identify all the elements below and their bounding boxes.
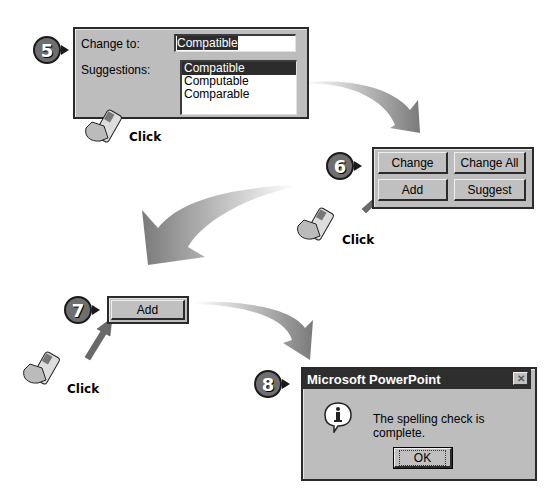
suggestion-item[interactable]: Comparable <box>182 88 296 101</box>
step-6-badge: 6 <box>326 152 362 180</box>
change-to-input[interactable]: Compatible <box>174 34 296 52</box>
message-text: The spelling check is complete. <box>373 412 535 440</box>
spelling-buttons-panel: Change Change All Add Suggest <box>372 147 534 209</box>
step-number: 5 <box>33 36 61 64</box>
step-5-badge: 5 <box>33 36 69 64</box>
mouse-hand-icon <box>82 108 127 150</box>
badge-pointer <box>61 45 69 55</box>
pointer-arrow-7 <box>85 318 112 360</box>
add-button-panel: Add <box>107 296 189 324</box>
info-icon <box>323 401 353 436</box>
change-all-button[interactable]: Change All <box>454 152 526 174</box>
close-button[interactable]: ✕ <box>513 372 528 385</box>
message-box: Microsoft PowerPoint ✕ The spelling chec… <box>301 367 537 481</box>
click-label: Click <box>342 233 374 247</box>
badge-pointer <box>282 379 290 389</box>
message-box-title-bar: Microsoft PowerPoint ✕ <box>303 369 531 389</box>
add-button[interactable]: Add <box>378 179 448 201</box>
add-button[interactable]: Add <box>111 300 185 320</box>
curved-arrow-7-to-8 <box>195 302 313 360</box>
message-box-title: Microsoft PowerPoint <box>307 372 441 387</box>
close-icon: ✕ <box>517 373 525 384</box>
step-number: 8 <box>254 370 282 398</box>
suggestions-list[interactable]: Compatible Computable Comparable <box>180 60 297 115</box>
step-7-badge: 7 <box>64 296 100 324</box>
mouse-hand-icon <box>294 206 339 248</box>
click-label: Click <box>129 130 161 144</box>
step-number: 7 <box>64 296 92 324</box>
ok-button[interactable]: OK <box>394 448 452 468</box>
suggestions-label: Suggestions: <box>81 63 150 77</box>
change-to-value: Compatible <box>177 36 238 50</box>
spelling-dialog-panel: Change to: Compatible Suggestions: Compa… <box>73 27 309 119</box>
curved-arrow-6-to-7 <box>142 185 295 265</box>
change-button[interactable]: Change <box>378 152 448 174</box>
step-8-badge: 8 <box>254 370 290 398</box>
badge-pointer <box>354 161 362 171</box>
change-to-label: Change to: <box>81 37 140 51</box>
badge-pointer <box>92 305 100 315</box>
mouse-hand-icon <box>20 350 65 392</box>
step-number: 6 <box>326 152 354 180</box>
click-label: Click <box>67 382 99 396</box>
curved-arrow-5-to-6 <box>305 81 420 133</box>
suggest-button[interactable]: Suggest <box>454 179 526 201</box>
